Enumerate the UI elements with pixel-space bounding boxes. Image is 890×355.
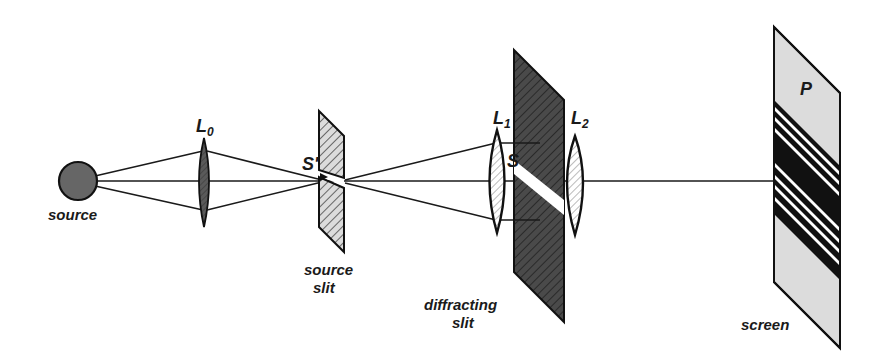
source-slit-upper (319, 111, 344, 178)
source-slit-point-label: S' (302, 154, 319, 174)
ray-upper-1 (95, 151, 203, 176)
lens-l1 (490, 130, 505, 233)
source-label: source (48, 206, 97, 223)
screen-label: screen (741, 316, 789, 333)
diffracting-slit-caption-1: diffracting (424, 296, 497, 313)
diffracting-slit-point-label: S (507, 151, 519, 171)
diffracting-slit-caption-2: slit (452, 314, 475, 331)
source-slit-caption-1: source (304, 261, 353, 278)
screen-point-label: P (800, 79, 813, 99)
diffraction-diagram: source L0 S' source slit L1 S diffractin… (0, 0, 890, 355)
light-source (59, 162, 97, 200)
ray-lower-2 (207, 182, 322, 210)
ray-lower-3 (345, 183, 496, 220)
ray-upper-3 (345, 143, 496, 180)
lens-l1-label: L1 (493, 108, 511, 131)
lens-l0 (199, 138, 209, 227)
lens-l2-label: L2 (571, 108, 589, 131)
source-slit-lower (319, 177, 344, 252)
ray-lower-1 (95, 186, 203, 210)
source-slit-caption-2: slit (313, 279, 336, 296)
screen (774, 27, 840, 348)
lens-l2 (567, 136, 583, 235)
lens-l0-label: L0 (196, 116, 214, 139)
